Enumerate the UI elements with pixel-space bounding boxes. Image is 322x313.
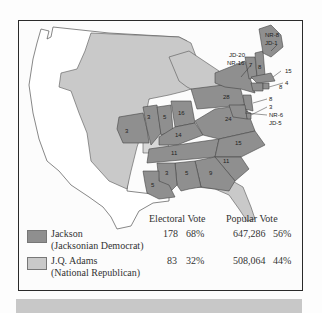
svg-text:11: 11 (171, 150, 178, 156)
svg-text:24: 24 (225, 116, 232, 122)
candidate-name: Jackson (51, 228, 143, 240)
svg-text:NR-6: NR-6 (269, 112, 284, 118)
popular-percent: 44% (273, 255, 291, 267)
popular-percent: 56% (273, 228, 291, 240)
electoral-percent: 32% (186, 255, 204, 267)
electoral-votes: 178 (163, 228, 178, 240)
svg-text:14: 14 (175, 132, 182, 138)
svg-text:8: 8 (269, 96, 273, 102)
svg-text:15: 15 (285, 68, 292, 74)
svg-text:11: 11 (223, 158, 230, 164)
jackson-swatch (27, 230, 47, 243)
electoral-percent: 68% (186, 228, 204, 240)
svg-text:JD-20: JD-20 (229, 52, 246, 58)
state-connecticut (251, 83, 263, 91)
legend-row-jackson: Jackson (Jacksonian Democrat) 178 68% 64… (27, 228, 297, 256)
legend-row-adams: J.Q. Adams (National Republican) 83 32% … (27, 255, 297, 283)
svg-text:NR-8: NR-8 (265, 32, 280, 38)
state-missouri (117, 113, 149, 143)
candidate-party: (Jacksonian Democrat) (51, 240, 143, 252)
popular-votes: 508,064 (233, 255, 266, 267)
map-frame: 3 3 5 16 14 11 28 24 15 11 9 5 3 5 7 8 1… (18, 20, 303, 291)
svg-text:8: 8 (279, 84, 283, 90)
electoral-votes: 83 (167, 255, 177, 267)
popular-votes: 647,286 (233, 228, 266, 240)
svg-text:16: 16 (178, 110, 185, 116)
svg-text:15: 15 (235, 140, 242, 146)
svg-text:28: 28 (223, 94, 230, 100)
svg-text:4: 4 (285, 80, 289, 86)
svg-text:JD-5: JD-5 (269, 120, 282, 126)
state-rhode-island (263, 83, 269, 89)
caption-bar (16, 299, 302, 313)
candidate-name: J.Q. Adams (51, 255, 140, 267)
adams-swatch (27, 257, 47, 270)
svg-text:NR-16: NR-16 (227, 60, 245, 66)
svg-text:3: 3 (269, 104, 273, 110)
popular-vote-header: Popular Vote (226, 213, 278, 224)
electoral-vote-header: Electoral Vote (149, 213, 206, 224)
svg-text:JD-1: JD-1 (265, 40, 278, 46)
candidate-party: (National Republican) (51, 267, 140, 279)
